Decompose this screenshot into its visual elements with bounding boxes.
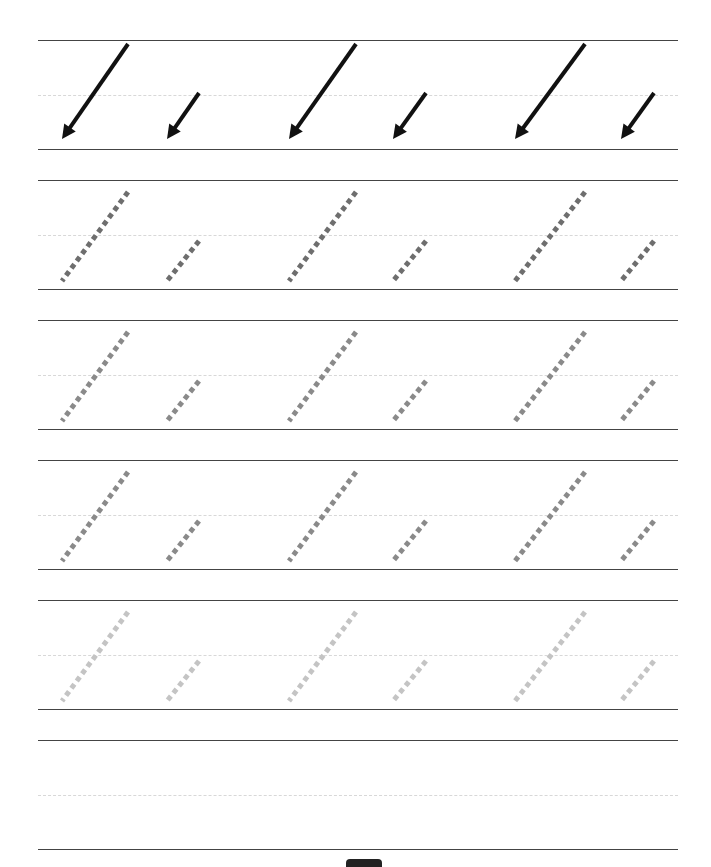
dotted-trace-line [62,612,128,701]
stroke-arrow-icon [521,44,585,131]
practice-row-4 [38,460,678,569]
bottom-guide-line [38,289,678,290]
practice-row-2 [38,180,678,289]
dotted-trace-line [167,521,199,561]
bottom-guide-line [38,849,678,850]
dotted-trace-line [515,472,585,561]
stroke-arrow-icon [399,93,426,131]
dotted-trace-line [167,241,199,281]
bottom-guide-line [38,149,678,150]
dotted-trace-line [167,381,199,421]
dotted-trace-line [393,661,426,701]
stroke-arrow-icon [173,93,199,131]
stroke-arrow-icon [627,93,654,131]
dotted-trace-line [621,241,654,281]
dotted-trace-line [515,192,585,281]
practice-row-6 [38,740,678,849]
practice-row-5 [38,600,678,709]
dotted-trace-line [515,332,585,421]
stroke-arrow-icon [68,44,128,131]
dotted-trace-line [393,241,426,281]
stroke-arrow-icon [295,44,356,131]
dotted-trace-line [393,521,426,561]
bottom-guide-line [38,709,678,710]
dotted-trace-line [621,521,654,561]
top-guide-line [38,740,678,741]
practice-row-3 [38,320,678,429]
dotted-trace-line [393,381,426,421]
dotted-trace-line [621,661,654,701]
dotted-trace-line [289,332,356,421]
dotted-trace-line [62,472,128,561]
dotted-trace-line [167,661,199,701]
arrow-strokes [38,40,678,149]
dotted-trace-strokes [38,180,678,289]
dotted-trace-strokes [38,600,678,709]
bottom-guide-line [38,569,678,570]
mid-dashed-guide-line [38,795,678,796]
practice-row-1 [38,40,678,149]
dotted-trace-strokes [38,320,678,429]
dotted-trace-line [62,332,128,421]
dotted-trace-strokes [38,460,678,569]
dotted-trace-line [289,612,356,701]
bottom-guide-line [38,429,678,430]
dotted-trace-line [621,381,654,421]
dotted-trace-line [289,192,356,281]
dotted-trace-line [289,472,356,561]
dotted-trace-line [515,612,585,701]
dotted-trace-line [62,192,128,281]
page-tab-marker [346,859,382,867]
